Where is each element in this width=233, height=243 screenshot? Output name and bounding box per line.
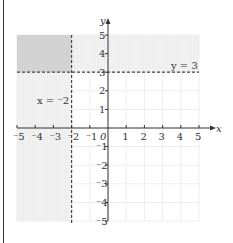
x-tick-label: ⁻5 (13, 131, 25, 142)
shaded-region-overlap (17, 35, 72, 72)
coordinate-plane: ⁻5⁻4⁻3⁻2⁻1012345⁻5⁻4⁻3⁻2⁻112345 x y y = … (0, 0, 233, 243)
y-tick-label: ⁻3 (96, 178, 108, 189)
y-tick-label: ⁻4 (96, 197, 108, 208)
y-tick-label: 5 (99, 30, 105, 41)
y-tick-label: 4 (99, 48, 105, 59)
y-tick-label: ⁻5 (96, 216, 108, 227)
y-tick-label: 3 (99, 67, 105, 78)
y-tick-label: 2 (99, 85, 105, 96)
x-axis-label: x (216, 123, 222, 134)
x-tick-label: ⁻4 (31, 131, 43, 142)
y-axis-arrow-icon (106, 18, 111, 24)
y-tick-label: ⁻1 (96, 141, 108, 152)
y-axis-label: y (99, 15, 106, 26)
x-tick-label: 1 (122, 131, 128, 142)
y-tick-label: 1 (99, 104, 105, 115)
x-tick-label: 5 (195, 131, 201, 142)
x-tick-label: ⁻2 (68, 131, 80, 142)
x-tick-label: ⁻3 (49, 131, 61, 142)
x-tick-label: 4 (177, 131, 183, 142)
line-label-y-equals-3: y = 3 (170, 60, 198, 71)
x-tick-label: 3 (159, 131, 165, 142)
y-tick-label: ⁻2 (96, 160, 108, 171)
x-tick-label: 2 (140, 131, 146, 142)
line-label-x-equals-neg2: x = ⁻2 (37, 95, 69, 106)
